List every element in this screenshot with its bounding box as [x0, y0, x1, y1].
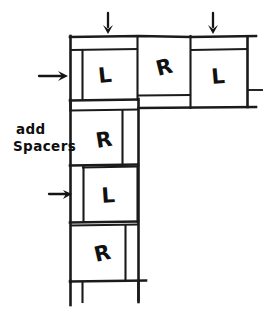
- down-arrow-2: [208, 13, 218, 34]
- block-label-left-lower: R: [92, 240, 113, 267]
- spacer-line-r-upper-top: [71, 110, 138, 111]
- top-band-bottom-right: [139, 107, 257, 108]
- spacer-line-l-mid-top: [83, 167, 137, 168]
- spacer-line-r-bottom: [139, 95, 190, 96]
- hand-drawn-layout-diagram: L R L R L R: [0, 0, 279, 318]
- block-label-top-right: L: [210, 64, 225, 89]
- top-outer-edge: [70, 36, 256, 37]
- leg-bottom-edge: [70, 281, 146, 282]
- diagram-canvas: L R L R L R: [0, 0, 279, 318]
- annotation-line-2: Spacers: [13, 138, 76, 154]
- annotation-add-spacers: add Spacers: [13, 121, 76, 154]
- block-label-top-left: L: [97, 63, 113, 88]
- leg-divider-1: [70, 165, 138, 166]
- spacer-line-r-lower-top: [71, 225, 138, 226]
- block-label-left-upper: R: [94, 127, 114, 153]
- block-label-left-mid: L: [101, 183, 116, 208]
- spacer-line-top-right: [192, 49, 247, 50]
- right-arrow-1: [39, 71, 68, 81]
- top-band-bottom-left: [70, 100, 138, 101]
- leg-divider-2: [70, 222, 138, 223]
- down-arrow-1: [103, 13, 113, 34]
- annotation-line-1: add: [16, 121, 46, 137]
- right-arrow-2: [49, 190, 72, 199]
- block-label-group: L R L R L R: [92, 54, 226, 267]
- block-label-top-middle: R: [153, 54, 174, 81]
